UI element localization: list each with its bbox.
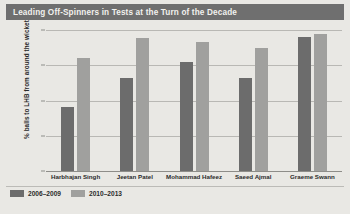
x-tick-label: Graeme Swann bbox=[283, 173, 342, 180]
bar[interactable] bbox=[314, 34, 327, 172]
bar[interactable] bbox=[136, 38, 149, 172]
chart-page: Leading Off-Spinners in Tests at the Tur… bbox=[0, 0, 350, 214]
x-tick-label: Harbhajan Singh bbox=[46, 173, 105, 180]
bar[interactable] bbox=[196, 42, 209, 172]
y-tick-mark bbox=[41, 135, 45, 136]
bar-group bbox=[46, 31, 105, 172]
bar[interactable] bbox=[255, 48, 268, 172]
legend-item[interactable]: 2010–2013 bbox=[71, 190, 122, 197]
y-axis-title: % balls to LHB from around the wicket bbox=[23, 14, 30, 146]
y-tick-mark bbox=[41, 171, 45, 172]
legend-label: 2006–2009 bbox=[28, 190, 61, 197]
y-tick-mark bbox=[41, 100, 45, 101]
plot-area: % balls to LHB from around the wicket 0%… bbox=[6, 20, 344, 186]
y-tick-mark bbox=[41, 65, 45, 66]
grid-wrap: 0%25%50%75%100% bbox=[46, 31, 342, 172]
x-tick-label: Saeed Ajmal bbox=[224, 173, 283, 180]
bars-layer bbox=[46, 31, 342, 172]
x-tick-label: Jeetan Patel bbox=[105, 173, 164, 180]
legend-label: 2010–2013 bbox=[89, 190, 122, 197]
legend-swatch bbox=[71, 190, 85, 197]
page-title: Leading Off-Spinners in Tests at the Tur… bbox=[13, 8, 237, 17]
y-tick-mark bbox=[41, 30, 45, 31]
bar[interactable] bbox=[239, 78, 252, 172]
bar[interactable] bbox=[120, 78, 133, 172]
bar-group bbox=[105, 31, 164, 172]
bar-group bbox=[224, 31, 283, 172]
bar-group bbox=[283, 31, 342, 172]
legend-divider bbox=[6, 186, 344, 187]
bar[interactable] bbox=[77, 58, 90, 172]
legend: 2006–20092010–2013 bbox=[10, 190, 122, 197]
bar[interactable] bbox=[61, 107, 74, 172]
bar[interactable] bbox=[298, 37, 311, 172]
x-tick-label: Mohammad Hafeez bbox=[164, 173, 223, 180]
x-axis-line bbox=[46, 171, 342, 172]
title-bar: Leading Off-Spinners in Tests at the Tur… bbox=[6, 4, 344, 20]
bar-group bbox=[164, 31, 223, 172]
x-axis-labels: Harbhajan SinghJeetan PatelMohammad Hafe… bbox=[46, 173, 342, 186]
bar[interactable] bbox=[180, 62, 193, 172]
legend-swatch bbox=[10, 190, 24, 197]
legend-item[interactable]: 2006–2009 bbox=[10, 190, 61, 197]
